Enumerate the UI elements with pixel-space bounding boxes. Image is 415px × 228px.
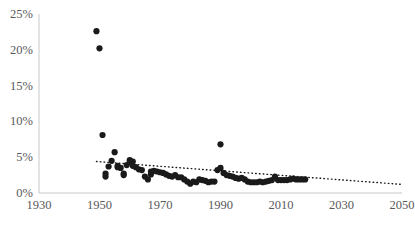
- data-point: [102, 173, 108, 179]
- y-tick-label: 25%: [0, 8, 33, 21]
- x-tick-label: 2050: [390, 199, 415, 212]
- data-points: [93, 28, 308, 187]
- y-tick-label: 10%: [0, 115, 33, 128]
- y-tick-label: 15%: [0, 79, 33, 92]
- data-point: [139, 167, 145, 173]
- data-point: [302, 176, 308, 182]
- x-tick-label: 1970: [148, 199, 173, 212]
- x-tick-label: 2030: [329, 199, 354, 212]
- data-point: [109, 158, 115, 164]
- y-tick-label: 20%: [0, 44, 33, 57]
- y-tick-label: 5%: [0, 151, 33, 164]
- data-point: [96, 45, 102, 51]
- data-point: [93, 28, 99, 34]
- x-tick-label: 1990: [208, 199, 233, 212]
- data-point: [118, 165, 124, 171]
- data-point: [99, 132, 105, 138]
- data-point: [217, 141, 223, 147]
- data-point: [211, 178, 217, 184]
- x-tick-label: 2010: [269, 199, 294, 212]
- data-point: [112, 149, 118, 155]
- data-point: [121, 171, 127, 177]
- x-tick-label: 1950: [87, 199, 112, 212]
- x-tick-label: 1930: [27, 199, 52, 212]
- data-point: [105, 163, 111, 169]
